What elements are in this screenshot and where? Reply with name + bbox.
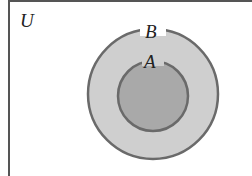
set-a-label: A <box>142 51 156 72</box>
set-b-label: B <box>145 21 157 42</box>
universe-label: U <box>20 10 35 31</box>
venn-diagram: U B A <box>0 0 252 176</box>
